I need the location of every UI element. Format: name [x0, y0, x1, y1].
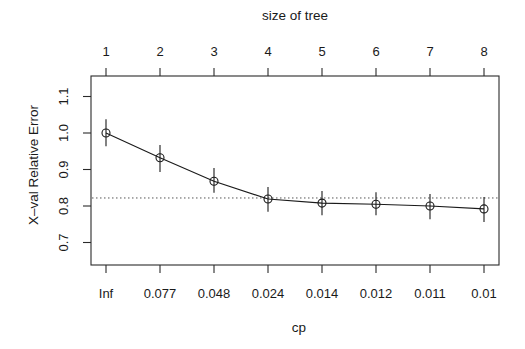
top-axis: 12345678	[102, 44, 487, 76]
left-tick-label: 1.0	[56, 124, 71, 142]
top-tick-label: 1	[102, 44, 109, 59]
bottom-tick-label: 0.077	[144, 286, 177, 301]
bottom-tick-label: 0.014	[306, 286, 339, 301]
left-tick-label: 0.7	[56, 233, 71, 251]
cp-plot: size of tree cp X–val Relative Error 123…	[0, 0, 525, 349]
bottom-axis: Inf0.0770.0480.0240.0140.0120.0110.01	[99, 265, 497, 301]
bottom-tick-label: 0.048	[198, 286, 231, 301]
bottom-tick-label: 0.01	[471, 286, 496, 301]
bottom-tick-label: 0.011	[414, 286, 446, 301]
x-axis-title: cp	[292, 320, 306, 335]
top-tick-label: 2	[156, 44, 163, 59]
plot-frame	[91, 76, 499, 265]
y-axis-title: X–val Relative Error	[26, 104, 41, 225]
left-tick-label: 0.8	[56, 197, 71, 215]
left-axis: 0.70.80.91.01.1	[56, 87, 91, 251]
top-tick-label: 5	[318, 44, 325, 59]
data-series	[102, 119, 488, 222]
bottom-tick-label: 0.012	[360, 286, 393, 301]
left-tick-label: 1.1	[56, 87, 71, 105]
series-line	[106, 133, 484, 209]
left-tick-label: 0.9	[56, 160, 71, 178]
top-tick-label: 6	[372, 44, 379, 59]
top-tick-label: 4	[264, 44, 271, 59]
top-axis-title: size of tree	[262, 8, 328, 23]
bottom-tick-label: 0.024	[252, 286, 285, 301]
top-tick-label: 8	[480, 44, 487, 59]
top-tick-label: 3	[210, 44, 217, 59]
bottom-tick-label: Inf	[99, 286, 114, 301]
top-tick-label: 7	[426, 44, 433, 59]
